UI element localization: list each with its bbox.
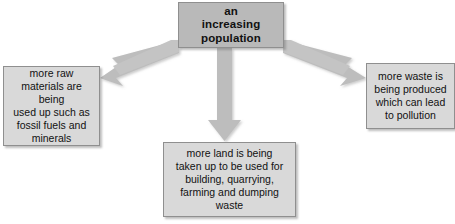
cause-box-increasing-population: an increasing population xyxy=(178,2,284,48)
effect-box-raw-materials-label: more raw materials are being used up suc… xyxy=(4,67,99,145)
diagram-canvas: an increasing population more raw materi… xyxy=(0,0,455,224)
arrow-to-land-use-icon xyxy=(208,48,241,141)
effect-box-waste-label: more waste is being produced which can l… xyxy=(367,70,454,122)
arrow-to-raw-materials-icon xyxy=(100,40,179,86)
effect-box-waste: more waste is being produced which can l… xyxy=(366,63,455,129)
effect-box-land-use: more land is being taken up to be used f… xyxy=(163,142,296,217)
effect-box-land-use-label: more land is being taken up to be used f… xyxy=(164,147,295,212)
arrow-to-waste-icon xyxy=(283,40,366,86)
effect-box-raw-materials: more raw materials are being used up suc… xyxy=(3,66,100,146)
cause-box-label: an increasing population xyxy=(179,5,283,46)
